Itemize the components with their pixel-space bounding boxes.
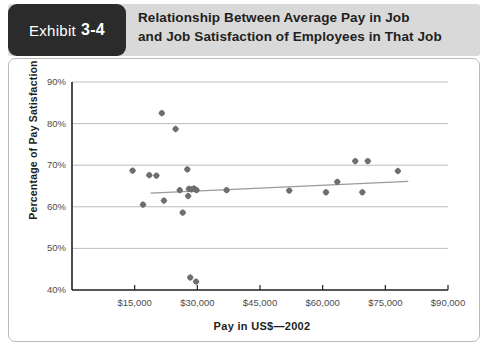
exhibit-title: Relationship Between Average Pay in Job … <box>138 8 474 46</box>
y-axis-tick-label: 50% <box>32 242 66 253</box>
y-axis-tick-label: 90% <box>32 76 66 87</box>
exhibit-badge: Exhibit 3-4 <box>8 4 126 56</box>
x-axis-tick-label: $75,000 <box>355 297 415 308</box>
y-axis-tick-label: 80% <box>32 118 66 129</box>
exhibit-title-line2: and Job Satisfaction of Employees in Tha… <box>138 27 474 46</box>
x-axis-tick-label: $60,000 <box>293 297 353 308</box>
x-axis-tick-label: $30,000 <box>167 297 227 308</box>
x-axis-tick-label: $90,000 <box>418 297 478 308</box>
exhibit-badge-number: 3-4 <box>81 21 105 39</box>
y-axis-tick-label: 60% <box>32 201 66 212</box>
exhibit-title-line1: Relationship Between Average Pay in Job <box>138 10 409 25</box>
exhibit-figure: Exhibit 3-4 Relationship Between Average… <box>0 0 488 348</box>
x-axis-tick-label: $15,000 <box>105 297 165 308</box>
y-axis-tick-label: 40% <box>32 284 66 295</box>
exhibit-badge-word: Exhibit <box>29 22 76 39</box>
x-axis-title: Pay in US$—2002 <box>72 320 452 332</box>
y-axis-tick-label: 70% <box>32 159 66 170</box>
x-axis-tick-label: $45,000 <box>230 297 290 308</box>
